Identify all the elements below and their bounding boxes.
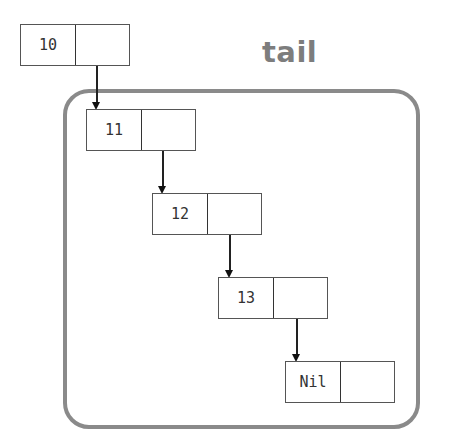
node-pointer-cell (341, 362, 394, 402)
list-node-13: 13 (218, 277, 328, 319)
link-line (229, 235, 231, 270)
node-value: 10 (21, 25, 76, 65)
tail-label: tail (262, 38, 317, 67)
node-pointer-cell (76, 25, 129, 65)
list-node-11: 11 (86, 109, 196, 151)
linked-list-diagram: tail 10 11 12 13 Nil (0, 0, 450, 447)
link-line (296, 319, 298, 354)
node-value: 13 (219, 278, 274, 318)
list-node-10: 10 (20, 24, 130, 66)
link-line (96, 66, 98, 102)
list-node-12: 12 (152, 193, 262, 235)
node-pointer-cell (142, 110, 195, 150)
node-pointer-cell (208, 194, 261, 234)
node-pointer-cell (274, 278, 327, 318)
node-value: 11 (87, 110, 142, 150)
node-value: Nil (286, 362, 341, 402)
list-node-nil: Nil (285, 361, 395, 403)
link-line (162, 151, 164, 186)
node-value: 12 (153, 194, 208, 234)
